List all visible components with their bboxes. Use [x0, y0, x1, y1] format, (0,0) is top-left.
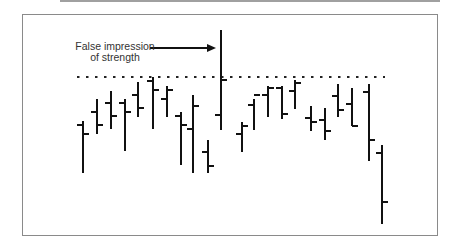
- ohlc-bar: [262, 86, 274, 117]
- ohlc-bar: [363, 84, 375, 161]
- ohlc-bar: [187, 95, 199, 173]
- ohlc-bar: [91, 99, 103, 134]
- ohlc-bar: [289, 80, 301, 109]
- ohlc-bar: [105, 91, 117, 129]
- ohlc-bar: [147, 77, 159, 129]
- ohlc-bar: [332, 84, 344, 117]
- ohlc-bar: [248, 95, 260, 130]
- ohlc-bar: [119, 99, 131, 151]
- ohlc-bar: [236, 122, 248, 152]
- ohlc-bar: [276, 86, 288, 119]
- ohlc-bar: [175, 112, 187, 165]
- ohlc-bar: [161, 86, 173, 117]
- ohlc-bar: [346, 88, 358, 126]
- ohlc-bar: [319, 108, 331, 140]
- ohlc-bar: [132, 82, 144, 117]
- arrow-head-icon: [207, 44, 216, 52]
- ohlc-bar: [215, 30, 227, 130]
- annotation-line-2: of strength: [55, 52, 175, 63]
- ohlc-bar: [202, 140, 214, 173]
- annotation-label: False impression of strength: [55, 41, 175, 63]
- ohlc-bar: [305, 106, 317, 131]
- ohlc-bar: [77, 121, 89, 173]
- ohlc-bar: [376, 145, 388, 224]
- ohlc-chart: [0, 0, 459, 249]
